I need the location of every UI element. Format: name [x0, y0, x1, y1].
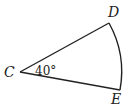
sector-diagram: C D E 40° — [0, 0, 129, 106]
sector-svg: C D E 40° — [0, 0, 129, 106]
radius-cd — [20, 23, 109, 72]
label-e: E — [110, 91, 121, 106]
label-c: C — [4, 64, 15, 80]
angle-label: 40° — [35, 64, 56, 78]
label-d: D — [107, 4, 119, 20]
arc-de — [109, 23, 122, 90]
